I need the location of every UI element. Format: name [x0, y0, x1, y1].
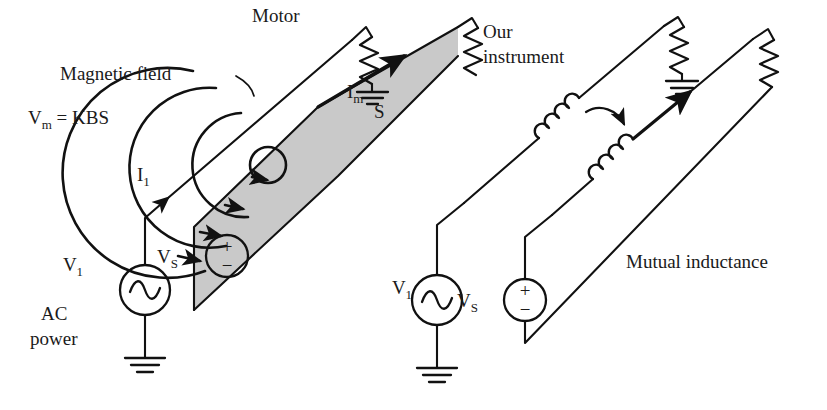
our-instrument-label-line1: Our [483, 21, 513, 42]
right-primary-resistor-lead [664, 17, 684, 27]
right-primary-resistor-group [664, 17, 698, 94]
inductor-icon-secondary [589, 135, 633, 179]
ac-power-label-line2: power [30, 328, 78, 349]
sine-wave-icon [130, 281, 160, 299]
right-secondary-wire-to-resistor [690, 39, 753, 92]
right-secondary-resistor-group [753, 29, 778, 87]
ac-power-label-line1: AC [41, 303, 67, 324]
instrument-branch-wire [458, 18, 478, 28]
loop-area-plane [194, 27, 458, 310]
left-ac-source-group [120, 265, 170, 372]
vs-plus-sign: + [222, 236, 233, 257]
ground-icon [125, 358, 165, 372]
figure-root: + − Vm = KBS Magnetic field Motor [0, 0, 827, 410]
right-primary-wire-to-coil [464, 138, 539, 203]
right-ac-source-group [412, 275, 462, 382]
right-ground-icon-bottom [417, 368, 457, 382]
magnetic-field-leader-line [236, 76, 254, 96]
right-secondary-resistor-lead [753, 29, 774, 40]
motor-label: Motor [252, 5, 300, 26]
right-ground-icon-top [666, 81, 698, 94]
right-resistor-icon-2 [760, 40, 778, 87]
right-secondary-wire-upper [633, 92, 690, 139]
vm-equation-label: Vm = KBS [28, 107, 109, 132]
right-secondary-wire-lower [525, 215, 552, 279]
magnetic-field-label: Magnetic field [60, 63, 172, 84]
loop-area-label: S [374, 101, 385, 122]
our-instrument-label-line2: instrument [483, 46, 565, 67]
right-vs-minus-sign: − [520, 299, 531, 320]
right-secondary-loop-group [525, 39, 753, 279]
left-instrument-branch-group [458, 18, 482, 75]
field-ring-4 [63, 68, 205, 278]
v1-label-left: V1 [63, 254, 83, 279]
vs-label-left: VS [157, 246, 178, 271]
mutual-inductance-label: Mutual inductance [626, 251, 768, 272]
circuit-diagram-canvas: + − Vm = KBS Magnetic field Motor [0, 0, 827, 410]
right-primary-wire-upper [579, 26, 664, 98]
primary-current-label: I1 [137, 164, 150, 189]
instrument-resistor-icon [464, 28, 482, 75]
right-primary-wire-lower [437, 203, 464, 275]
right-sine-wave-icon [422, 291, 452, 309]
right-vs-source-group: + − [504, 279, 546, 321]
right-vs-plus-sign: + [520, 280, 531, 301]
right-secondary-wire-to-coil [552, 179, 593, 215]
inductor-icon-primary [535, 94, 579, 138]
left-loop-plane-group [194, 27, 458, 310]
v1-label-right: V1 [392, 277, 412, 302]
vs-minus-sign: − [222, 255, 233, 276]
right-resistor-icon-1 [670, 27, 688, 74]
mutual-coupling-arrow-icon [586, 108, 624, 124]
